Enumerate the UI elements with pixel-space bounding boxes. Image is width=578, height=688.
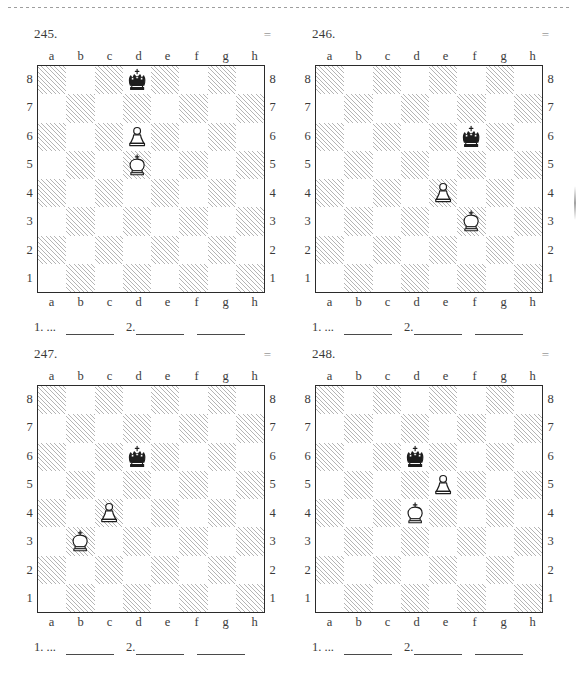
square-d3[interactable] [123, 207, 151, 235]
square-a1[interactable] [316, 584, 344, 612]
square-e4[interactable] [151, 179, 179, 207]
square-d7[interactable] [401, 94, 429, 122]
square-g4[interactable] [486, 179, 514, 207]
square-h1[interactable] [236, 264, 264, 292]
square-g4[interactable] [486, 499, 514, 527]
square-e3[interactable] [151, 207, 179, 235]
square-f3[interactable] [457, 527, 485, 555]
square-a7[interactable] [38, 414, 66, 442]
square-c1[interactable] [373, 264, 401, 292]
square-g2[interactable] [486, 556, 514, 584]
square-a1[interactable] [316, 264, 344, 292]
square-a2[interactable] [316, 556, 344, 584]
square-d4[interactable] [123, 179, 151, 207]
square-a7[interactable] [316, 94, 344, 122]
square-f1[interactable] [457, 264, 485, 292]
square-g8[interactable] [486, 386, 514, 414]
square-e4-white-pawn[interactable] [429, 179, 457, 207]
square-g5[interactable] [208, 151, 236, 179]
square-e7[interactable] [429, 414, 457, 442]
square-g7[interactable] [208, 94, 236, 122]
square-h4[interactable] [236, 499, 264, 527]
square-a6[interactable] [38, 443, 66, 471]
answer-blank-1-white[interactable] [344, 642, 392, 655]
square-g1[interactable] [208, 584, 236, 612]
answer-blank-2-white[interactable] [414, 642, 462, 655]
square-c3[interactable] [95, 207, 123, 235]
square-g5[interactable] [208, 471, 236, 499]
square-a4[interactable] [316, 499, 344, 527]
square-e1[interactable] [429, 264, 457, 292]
square-d2[interactable] [401, 556, 429, 584]
square-a7[interactable] [316, 414, 344, 442]
square-g6[interactable] [208, 443, 236, 471]
square-b3[interactable] [66, 207, 94, 235]
square-c1[interactable] [373, 584, 401, 612]
square-h6[interactable] [514, 443, 542, 471]
square-g8[interactable] [208, 386, 236, 414]
square-f4[interactable] [457, 179, 485, 207]
square-c8[interactable] [373, 66, 401, 94]
square-a5[interactable] [316, 471, 344, 499]
square-h1[interactable] [514, 264, 542, 292]
square-e2[interactable] [151, 236, 179, 264]
square-b1[interactable] [344, 264, 372, 292]
square-d8[interactable] [401, 386, 429, 414]
square-c6[interactable] [95, 443, 123, 471]
square-d1[interactable] [123, 264, 151, 292]
square-a8[interactable] [38, 66, 66, 94]
square-a8[interactable] [316, 386, 344, 414]
square-a7[interactable] [38, 94, 66, 122]
square-b3[interactable] [344, 527, 372, 555]
square-f5[interactable] [457, 151, 485, 179]
square-f2[interactable] [457, 236, 485, 264]
square-b2[interactable] [66, 556, 94, 584]
square-f8[interactable] [457, 386, 485, 414]
square-h3[interactable] [514, 207, 542, 235]
square-a6[interactable] [38, 123, 66, 151]
square-c5[interactable] [373, 151, 401, 179]
square-g1[interactable] [486, 264, 514, 292]
square-a5[interactable] [38, 471, 66, 499]
square-a8[interactable] [316, 66, 344, 94]
square-d7[interactable] [123, 414, 151, 442]
square-b4[interactable] [66, 179, 94, 207]
square-b6[interactable] [344, 123, 372, 151]
square-c5[interactable] [373, 471, 401, 499]
square-h8[interactable] [236, 66, 264, 94]
square-h7[interactable] [514, 414, 542, 442]
square-c2[interactable] [95, 236, 123, 264]
square-b4[interactable] [66, 499, 94, 527]
square-b3[interactable] [344, 207, 372, 235]
square-c8[interactable] [95, 386, 123, 414]
square-h3[interactable] [236, 207, 264, 235]
square-c3[interactable] [373, 527, 401, 555]
square-f8[interactable] [179, 66, 207, 94]
square-g4[interactable] [208, 499, 236, 527]
square-a4[interactable] [38, 179, 66, 207]
square-e3[interactable] [429, 527, 457, 555]
square-b2[interactable] [66, 236, 94, 264]
square-a5[interactable] [38, 151, 66, 179]
square-g2[interactable] [208, 556, 236, 584]
square-e5[interactable] [429, 151, 457, 179]
square-e7[interactable] [151, 94, 179, 122]
square-f7[interactable] [179, 414, 207, 442]
square-f6[interactable] [457, 443, 485, 471]
square-g1[interactable] [208, 264, 236, 292]
answer-blank-2-black[interactable] [197, 322, 245, 335]
square-f5[interactable] [179, 471, 207, 499]
square-g2[interactable] [208, 236, 236, 264]
square-f7[interactable] [457, 94, 485, 122]
square-e8[interactable] [429, 66, 457, 94]
square-e1[interactable] [151, 584, 179, 612]
square-h1[interactable] [236, 584, 264, 612]
square-b1[interactable] [344, 584, 372, 612]
square-c6[interactable] [373, 123, 401, 151]
square-e1[interactable] [429, 584, 457, 612]
square-f5[interactable] [457, 471, 485, 499]
square-b5[interactable] [344, 151, 372, 179]
square-c7[interactable] [373, 94, 401, 122]
square-f5[interactable] [179, 151, 207, 179]
square-d6[interactable] [401, 123, 429, 151]
